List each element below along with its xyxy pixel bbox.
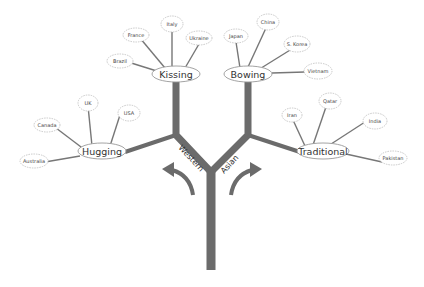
svg-text:Australia: Australia xyxy=(23,158,45,164)
leaf-node-india: India xyxy=(363,113,387,129)
leaf-node-qatar: Qatar xyxy=(319,93,341,109)
svg-text:Bowing: Bowing xyxy=(231,69,266,80)
leaf-node-usa: USA xyxy=(118,105,140,121)
svg-text:Vietnam: Vietnam xyxy=(308,68,329,74)
leaf-node-uk: UK xyxy=(78,95,98,111)
svg-text:Traditional: Traditional xyxy=(297,146,347,157)
leaf-node-s-korea: S. Korea xyxy=(284,36,310,52)
svg-text:Canada: Canada xyxy=(37,122,56,128)
svg-text:Ukraine: Ukraine xyxy=(189,35,208,41)
branch-to-traditional xyxy=(248,135,300,152)
leaf-node-brazil: Brazil xyxy=(107,54,133,68)
svg-text:France: France xyxy=(128,32,145,38)
svg-text:Hugging: Hugging xyxy=(82,146,122,157)
tree-structure xyxy=(125,78,300,270)
curved-arrow-right-icon xyxy=(231,162,262,195)
svg-text:India: India xyxy=(369,118,381,124)
hub-node-kissing: Kissing xyxy=(152,66,200,82)
svg-text:Japan: Japan xyxy=(228,33,243,40)
leaf-node-italy: Italy xyxy=(161,16,183,32)
curved-arrow-left-icon xyxy=(162,162,193,195)
svg-text:Brazil: Brazil xyxy=(113,58,127,64)
greeting-tree-diagram: Western Asian Brazil France Italy Ukrain… xyxy=(0,0,424,287)
leaf-node-pakistan: Pakistan xyxy=(379,151,407,165)
hub-node-bowing: Bowing xyxy=(224,66,272,82)
hub-node-hugging: Hugging xyxy=(78,143,126,159)
svg-text:Qatar: Qatar xyxy=(323,98,338,104)
svg-text:USA: USA xyxy=(124,110,135,116)
leaf-node-france: France xyxy=(123,28,149,42)
svg-text:Iran: Iran xyxy=(287,112,297,118)
svg-text:Pakistan: Pakistan xyxy=(383,155,404,161)
leaf-node-iran: Iran xyxy=(282,108,302,122)
leaf-node-vietnam: Vietnam xyxy=(304,63,332,79)
svg-text:S. Korea: S. Korea xyxy=(287,41,308,47)
branch-to-hugging xyxy=(125,135,176,152)
svg-text:China: China xyxy=(261,19,275,25)
leaf-node-japan: Japan xyxy=(224,29,248,43)
leaf-node-ukraine: Ukraine xyxy=(186,31,212,45)
leaf-node-china: China xyxy=(257,14,279,30)
svg-text:Kissing: Kissing xyxy=(159,69,192,80)
leaf-node-australia: Australia xyxy=(20,154,48,168)
svg-text:Italy: Italy xyxy=(167,21,178,28)
svg-text:UK: UK xyxy=(85,100,93,106)
hub-node-traditional: Traditional xyxy=(297,143,349,159)
leaf-node-canada: Canada xyxy=(34,118,60,132)
